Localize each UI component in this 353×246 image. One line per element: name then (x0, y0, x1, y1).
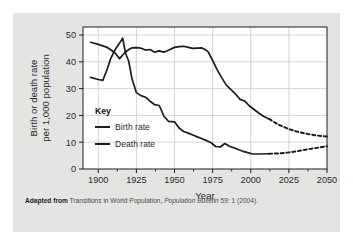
x-tick-labels: 1900192519501975200020252050 (88, 175, 337, 185)
y-tick-labels: 01020304050 (66, 30, 76, 174)
y-tick-label: 0 (71, 164, 76, 174)
figure-panel: 01020304050 1900192519501975200020252050… (13, 13, 340, 232)
y-axis-title: Birth or death rate per 1,000 population (28, 54, 51, 141)
legend-label: Birth rate (115, 122, 150, 132)
caption-italic: Population Bulletin (164, 197, 219, 204)
y-axis-title-line1: Birth or death rate (28, 60, 39, 137)
x-tick-label: 2000 (241, 175, 261, 185)
y-axis-title-line2: per 1,000 population (40, 54, 51, 141)
y-tick-label: 50 (66, 30, 76, 40)
y-tick-label: 10 (66, 138, 76, 148)
y-tick-label: 30 (66, 84, 76, 94)
x-tick-label: 1975 (202, 175, 222, 185)
caption-text-1: Transitions in World Population, (68, 197, 164, 204)
y-tick-label: 20 (66, 111, 76, 121)
x-tick-label: 2050 (317, 175, 337, 185)
caption-lead: Adapted from (25, 197, 68, 204)
legend-label: Death rate (115, 139, 155, 149)
x-tick-label: 1950 (164, 175, 184, 185)
y-tick-label: 40 (66, 57, 76, 67)
legend-title: Key (95, 106, 111, 116)
x-tick-label: 1900 (88, 175, 108, 185)
figure-caption: Adapted from Transitions in World Popula… (25, 196, 330, 205)
x-tick-label: 1925 (126, 175, 146, 185)
caption-text-2: 59: 1 (2004). (219, 197, 258, 204)
x-tick-label: 2025 (279, 175, 299, 185)
